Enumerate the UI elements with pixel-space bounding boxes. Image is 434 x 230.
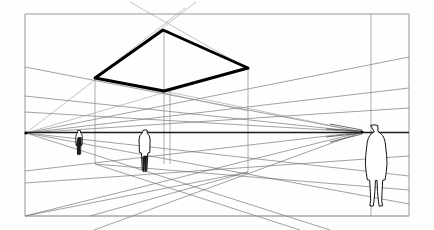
left-vanishing-point-dot xyxy=(24,131,27,134)
perspective-construction-svg xyxy=(0,0,434,230)
perspective-drawing-canvas: Two-point perspective construction study… xyxy=(0,0,434,230)
paper-background xyxy=(0,0,434,230)
